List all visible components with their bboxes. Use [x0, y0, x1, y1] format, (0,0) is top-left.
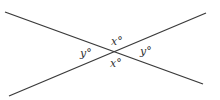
line-ascending: [9, 13, 206, 96]
angle-label-right: y°: [139, 45, 152, 58]
line-descending: [5, 12, 203, 84]
angle-label-bottom: x°: [110, 57, 122, 70]
angle-label-top: x°: [111, 35, 123, 48]
intersecting-lines-diagram: x° y° y° x°: [0, 0, 220, 100]
angle-label-left: y°: [79, 47, 92, 60]
